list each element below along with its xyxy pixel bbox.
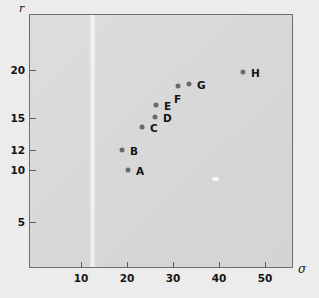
x-tick-label: 40	[204, 272, 234, 284]
data-point-b	[120, 148, 125, 153]
y-tick-mark	[30, 150, 36, 152]
data-point-d	[153, 115, 158, 120]
data-point-label-h: H	[251, 67, 260, 79]
x-tick-label: 50	[250, 272, 280, 284]
speck-artifact	[212, 177, 219, 181]
y-tick-label: 15	[3, 112, 25, 124]
data-point-c	[140, 125, 145, 130]
x-tick-label: 10	[66, 272, 96, 284]
data-point-label-g: G	[197, 79, 206, 91]
y-axis-label: r	[19, 2, 24, 15]
data-point-a	[126, 168, 131, 173]
y-tick-mark	[30, 118, 36, 120]
y-tick-label: 12	[3, 144, 25, 156]
panel-texture-overlay	[30, 15, 292, 267]
y-tick-label: 20	[3, 64, 25, 76]
data-point-g	[187, 82, 192, 87]
x-tick-mark	[127, 262, 129, 268]
y-tick-mark	[30, 222, 36, 224]
data-point-label-b: B	[130, 145, 138, 157]
scatter-plot-figure: r σ 201512105 1020304050 ABCDEFGH	[0, 0, 319, 298]
data-point-e	[154, 103, 159, 108]
x-tick-mark	[173, 262, 175, 268]
x-tick-label: 30	[158, 272, 188, 284]
data-point-label-c: C	[150, 122, 158, 134]
x-tick-mark	[219, 262, 221, 268]
scan-band-artifact	[89, 15, 96, 267]
plot-area	[29, 14, 293, 268]
y-tick-mark	[30, 70, 36, 72]
x-tick-mark	[81, 262, 83, 268]
data-point-label-a: A	[136, 165, 144, 177]
data-point-h	[241, 70, 246, 75]
x-axis-label: σ	[298, 262, 306, 276]
data-point-label-e: E	[164, 100, 171, 112]
data-point-label-d: D	[163, 112, 172, 124]
y-tick-label: 5	[3, 216, 25, 228]
data-point-label-f: F	[174, 93, 181, 105]
y-tick-mark	[30, 170, 36, 172]
data-point-f	[176, 84, 181, 89]
x-tick-mark	[265, 262, 267, 268]
y-tick-label: 10	[3, 164, 25, 176]
x-tick-label: 20	[112, 272, 142, 284]
